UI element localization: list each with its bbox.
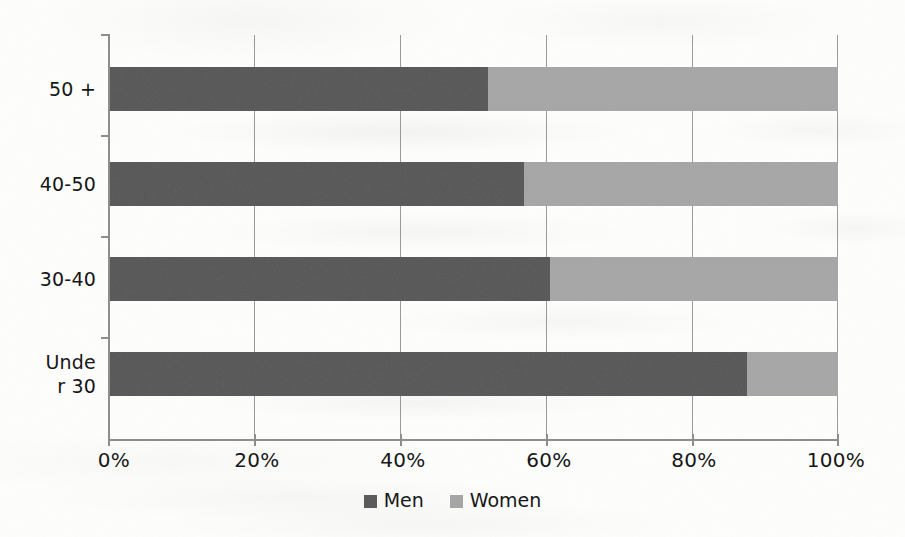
x-tick-label-80: 80% [649, 448, 739, 472]
category-label-30-40-line1: 30-40 [10, 267, 96, 291]
legend-label-women: Women [470, 489, 542, 511]
plot-area [108, 35, 838, 440]
bar-row-30-40[interactable] [108, 257, 838, 301]
legend-item-men[interactable]: Men [364, 489, 424, 511]
category-label-under-30: Unde r 30 [10, 350, 96, 398]
y-axis-tick-2 [101, 236, 109, 238]
x-tick-label-20: 20% [212, 448, 302, 472]
category-label-under-30-line1: Unde [10, 350, 96, 374]
x-tick-label-60: 60% [504, 448, 594, 472]
chart-legend: Men Women [0, 489, 905, 511]
y-axis-tick-3 [101, 337, 109, 339]
x-axis-tick-60 [546, 434, 548, 446]
bar-segment-women-40-50 [524, 162, 838, 206]
x-tick-label-40: 40% [358, 448, 448, 472]
bar-segment-women-30-40 [550, 257, 838, 301]
y-axis-tick-top [101, 34, 109, 36]
x-tick-label-0: 0% [69, 448, 159, 472]
bar-row-40-50[interactable] [108, 162, 838, 206]
bar-segment-men-40-50 [108, 162, 524, 206]
bar-row-50-plus[interactable] [108, 67, 838, 111]
category-label-40-50-line1: 40-50 [10, 172, 96, 196]
bar-segment-men-30-40 [108, 257, 550, 301]
stacked-bar-chart: 50 + 40-50 30-40 Unde r 30 0% 20% 40% 60… [0, 0, 905, 537]
x-axis-tick-40 [400, 434, 402, 446]
x-axis-line [108, 439, 839, 441]
bar-segment-women-under-30 [747, 352, 838, 396]
bar-segment-men-50-plus [108, 67, 488, 111]
legend-swatch-men-icon [364, 495, 377, 508]
x-axis-tick-80 [692, 434, 694, 446]
legend-item-women[interactable]: Women [450, 489, 542, 511]
legend-swatch-women-icon [450, 495, 463, 508]
x-axis-tick-0 [108, 434, 110, 446]
y-axis-tick-1 [101, 135, 109, 137]
category-label-40-50: 40-50 [10, 172, 96, 196]
category-label-under-30-line2: r 30 [10, 374, 96, 398]
category-label-50-plus-line1: 50 + [10, 77, 96, 101]
x-axis-tick-20 [254, 434, 256, 446]
category-label-30-40: 30-40 [10, 267, 96, 291]
x-axis-tick-100 [837, 434, 839, 446]
bar-row-under-30[interactable] [108, 352, 838, 396]
category-label-50-plus: 50 + [10, 77, 96, 101]
bar-segment-women-50-plus [488, 67, 838, 111]
x-tick-label-100: 100% [791, 448, 881, 472]
bar-segment-men-under-30 [108, 352, 747, 396]
legend-label-men: Men [384, 489, 424, 511]
